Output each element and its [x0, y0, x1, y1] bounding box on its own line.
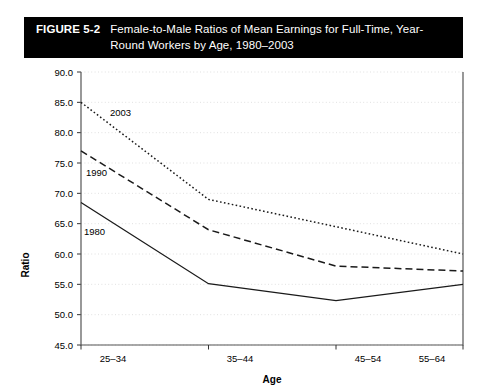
y-axis-tick-label: 70.0 [55, 188, 74, 199]
gridlines-group [81, 72, 463, 345]
series-label-2003: 2003 [110, 107, 131, 118]
series-label-1980: 1980 [84, 226, 105, 237]
x-axis-title: Age [263, 374, 282, 385]
y-axis-tick-label: 55.0 [55, 279, 74, 290]
y-axis-title: Ratio [20, 253, 31, 278]
chart-container: 45.050.055.060.065.070.075.080.085.090.0… [0, 58, 487, 391]
series-line-1980 [81, 202, 463, 300]
line-chart: 45.050.055.060.065.070.075.080.085.090.0… [0, 58, 487, 391]
y-axis-tick-label: 75.0 [55, 158, 74, 169]
x-axis-category-labels-group: 25–3435–4445–5455–64 [100, 353, 445, 364]
series-line-1990 [81, 151, 463, 271]
axis-frame [81, 72, 463, 345]
series-label-1990: 1990 [86, 167, 107, 178]
data-series-group [81, 102, 463, 300]
y-axis-tick-label: 85.0 [55, 97, 74, 108]
series-line-2003 [81, 102, 463, 254]
y-axis-tick-label: 50.0 [55, 309, 74, 320]
x-axis-category-label: 45–54 [355, 353, 381, 364]
y-axis-tick-label: 80.0 [55, 127, 74, 138]
figure-caption-bar: FIGURE 5-2 Female-to-Male Ratios of Mean… [24, 17, 463, 58]
x-axis-ticks-group [81, 345, 463, 350]
y-axis-tick-label: 45.0 [55, 340, 74, 351]
x-axis-category-label: 25–34 [100, 353, 126, 364]
y-axis-tick-labels-group: 45.050.055.060.065.070.075.080.085.090.0 [55, 67, 74, 351]
x-axis-category-label: 35–44 [227, 353, 253, 364]
series-annotation-labels-group: 200319901980 [84, 107, 131, 237]
x-axis-category-label: 55–64 [419, 353, 445, 364]
figure-number-label: FIGURE 5-2 [36, 22, 100, 38]
figure-title-text: Female-to-Male Ratios of Mean Earnings f… [110, 22, 453, 53]
y-axis-tick-label: 90.0 [55, 67, 74, 78]
y-axis-tick-label: 60.0 [55, 249, 74, 260]
y-axis-tick-label: 65.0 [55, 218, 74, 229]
